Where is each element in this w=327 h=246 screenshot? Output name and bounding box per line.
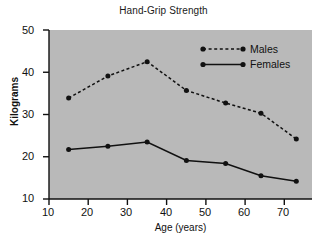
data-point-males-25 xyxy=(105,74,110,79)
x-tick-label-10: 10 xyxy=(42,206,54,218)
chart-page: Hand-Grip Strength xyxy=(0,0,327,246)
x-tick-label-50: 50 xyxy=(199,206,211,218)
y-axis-ticks xyxy=(43,30,49,199)
data-point-males-45 xyxy=(184,88,189,93)
y-tick-label-50: 50 xyxy=(22,24,34,36)
x-tick-label-70: 70 xyxy=(277,206,289,218)
x-axis-ticks xyxy=(49,199,284,205)
x-tick-label-30: 30 xyxy=(120,206,132,218)
legend-label-females: Females xyxy=(250,58,290,70)
x-axis-title: Age (years) xyxy=(49,222,312,233)
x-tick-label-40: 40 xyxy=(160,206,172,218)
data-point-males-15 xyxy=(66,96,71,101)
y-tick-label-30: 30 xyxy=(22,108,34,120)
data-point-females-45 xyxy=(184,158,189,163)
data-point-females-64 xyxy=(258,173,263,178)
data-point-males-55 xyxy=(223,101,228,106)
data-point-males-73 xyxy=(294,137,299,142)
y-tick-label-40: 40 xyxy=(22,66,34,78)
legend-label-males: Males xyxy=(250,43,278,55)
data-point-females-35 xyxy=(145,139,150,144)
data-point-females-25 xyxy=(105,144,110,149)
data-point-males-64 xyxy=(258,111,263,116)
y-axis-title: Kilograms xyxy=(9,67,20,137)
data-point-females-55 xyxy=(223,161,228,166)
data-point-females-15 xyxy=(66,147,71,152)
y-tick-label-20: 20 xyxy=(22,150,34,162)
data-point-males-35 xyxy=(145,59,150,64)
plot-background xyxy=(49,30,312,199)
y-tick-label-10: 10 xyxy=(22,192,34,204)
x-tick-label-60: 60 xyxy=(238,206,250,218)
x-tick-label-20: 20 xyxy=(81,206,93,218)
data-point-females-73 xyxy=(294,179,299,184)
